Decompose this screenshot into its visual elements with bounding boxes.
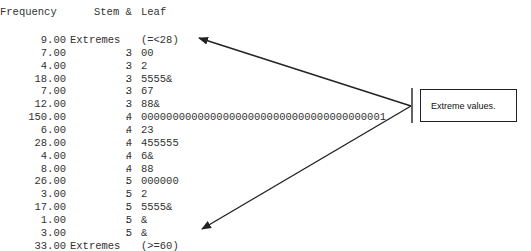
arrow-to-high-extremes [202,106,411,229]
annotation-arrows [0,0,531,251]
arrow-to-low-extremes [199,38,411,106]
extreme-values-note: Extreme values. [420,89,517,122]
